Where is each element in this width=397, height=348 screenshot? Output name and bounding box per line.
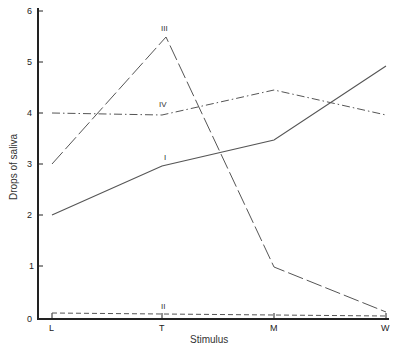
- x-axis-title: Stimulus: [190, 334, 228, 345]
- y-tick-3: 3: [27, 159, 32, 169]
- y-tick-6: 6: [27, 6, 32, 16]
- y-tick-1: 1: [29, 261, 34, 271]
- x-tick-M: M: [270, 323, 278, 333]
- series-II-line: [52, 313, 386, 316]
- x-tick-W: W: [381, 323, 390, 333]
- x-tick-T: T: [159, 323, 165, 333]
- x-tick-L: L: [49, 323, 54, 333]
- series-I-label: I: [164, 153, 166, 162]
- series-III-line: [52, 37, 386, 312]
- series-II-label: II: [161, 302, 165, 311]
- y-tick-4: 4: [27, 108, 32, 118]
- series-I-line: [52, 66, 386, 215]
- y-tick-0: 0: [27, 314, 32, 324]
- saliva-line-chart: 6 5 4 3 2 1 0 L T M W Stimulus Drops of …: [0, 0, 397, 348]
- series-IV-line: [52, 90, 386, 115]
- series-IV-label: IV: [159, 100, 167, 109]
- y-tick-5: 5: [27, 57, 32, 67]
- series-III-label: III: [161, 24, 168, 33]
- y-axis-title: Drops of saliva: [8, 133, 19, 200]
- y-tick-2: 2: [27, 210, 32, 220]
